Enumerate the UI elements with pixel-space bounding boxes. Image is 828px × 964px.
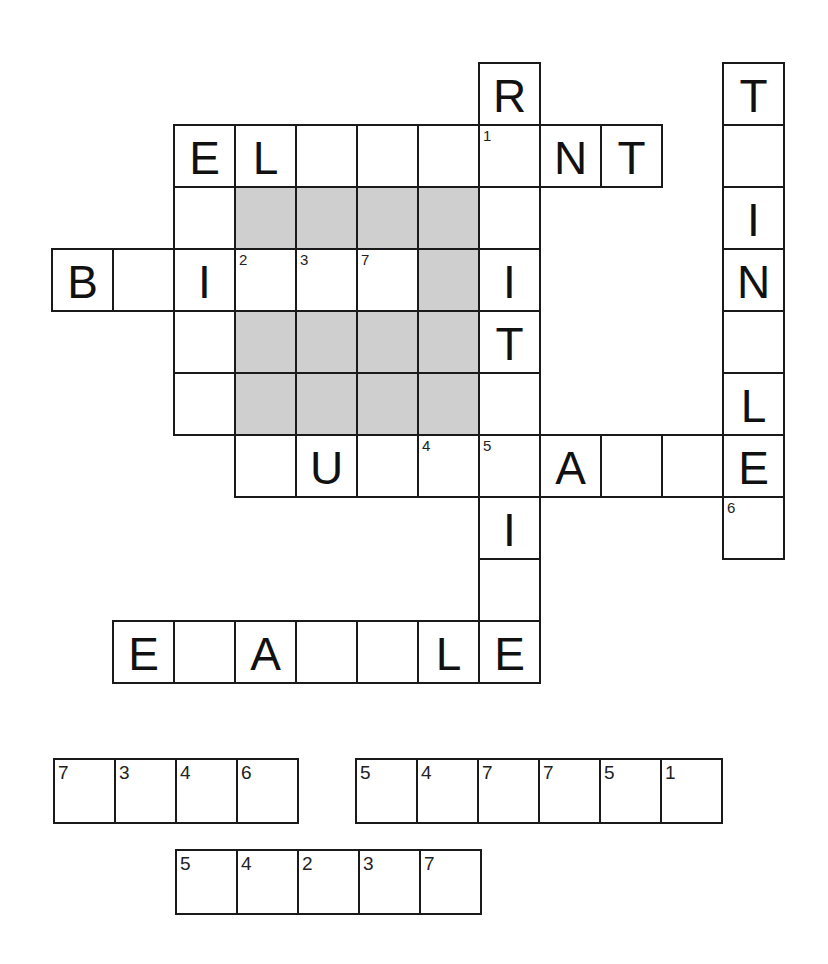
- crossword-cell[interactable]: [295, 620, 358, 684]
- cell-letter: N: [541, 132, 600, 184]
- code-number: 7: [58, 762, 69, 784]
- crossword-cell[interactable]: A: [234, 620, 297, 684]
- cell-letter: E: [480, 628, 539, 680]
- crossword-cell[interactable]: B: [51, 248, 114, 312]
- shaded-cell: [417, 186, 480, 250]
- cell-letter: T: [724, 70, 783, 122]
- crossword-cell[interactable]: I: [478, 496, 541, 560]
- cell-letter: A: [236, 628, 295, 680]
- crossword-cell[interactable]: T: [722, 62, 785, 126]
- crossword-cell[interactable]: I: [722, 186, 785, 250]
- code-word-cell[interactable]: 6: [236, 758, 299, 824]
- code-number: 7: [482, 762, 493, 784]
- crossword-cell[interactable]: [722, 310, 785, 374]
- cell-letter: N: [724, 256, 783, 308]
- cell-letter: I: [724, 194, 783, 246]
- code-number: 4: [180, 762, 191, 784]
- crossword-cell[interactable]: R: [478, 62, 541, 126]
- crossword-cell[interactable]: [295, 124, 358, 188]
- code-word-cell[interactable]: 5: [599, 758, 662, 824]
- crossword-cell[interactable]: [661, 434, 724, 498]
- crossword-cell[interactable]: A: [539, 434, 602, 498]
- crossword-cell[interactable]: [173, 310, 236, 374]
- cell-letter: E: [724, 442, 783, 494]
- crossword-cell[interactable]: 4: [417, 434, 480, 498]
- crossword-cell[interactable]: E: [112, 620, 175, 684]
- code-word-cell[interactable]: 4: [175, 758, 238, 824]
- cell-number: 6: [727, 499, 735, 516]
- crossword-cell[interactable]: [112, 248, 175, 312]
- code-word-cell[interactable]: 4: [236, 849, 299, 915]
- cell-number: 1: [483, 127, 491, 144]
- cell-letter: T: [480, 318, 539, 370]
- code-number: 6: [241, 762, 252, 784]
- crossword-cell[interactable]: [600, 434, 663, 498]
- code-word-cell[interactable]: 7: [419, 849, 482, 915]
- crossword-cell[interactable]: 7: [356, 248, 419, 312]
- crossword-cell[interactable]: [173, 620, 236, 684]
- code-word-cell[interactable]: 5: [355, 758, 418, 824]
- cell-letter: L: [419, 628, 478, 680]
- code-number: 2: [302, 853, 313, 875]
- cell-letter: E: [114, 628, 173, 680]
- crossword-cell[interactable]: 2: [234, 248, 297, 312]
- code-word-cell[interactable]: 7: [538, 758, 601, 824]
- code-number: 3: [119, 762, 130, 784]
- code-word-cell[interactable]: 7: [53, 758, 116, 824]
- crossword-cell[interactable]: N: [539, 124, 602, 188]
- cell-number: 7: [361, 251, 369, 268]
- crossword-cell[interactable]: E: [722, 434, 785, 498]
- crossword-cell[interactable]: E: [478, 620, 541, 684]
- code-word-cell[interactable]: 7: [477, 758, 540, 824]
- cell-letter: A: [541, 442, 600, 494]
- code-number: 5: [604, 762, 615, 784]
- crossword-cell[interactable]: [356, 620, 419, 684]
- cell-letter: I: [175, 256, 234, 308]
- code-word-cell[interactable]: 1: [660, 758, 723, 824]
- code-number: 4: [241, 853, 252, 875]
- code-number: 4: [421, 762, 432, 784]
- crossword-cell[interactable]: U: [295, 434, 358, 498]
- crossword-cell[interactable]: [173, 372, 236, 436]
- cell-letter: I: [480, 504, 539, 556]
- crossword-cell[interactable]: T: [600, 124, 663, 188]
- cell-number: 2: [239, 251, 247, 268]
- crossword-cell[interactable]: 3: [295, 248, 358, 312]
- shaded-cell: [295, 310, 358, 374]
- crossword-cell[interactable]: L: [417, 620, 480, 684]
- crossword-cell[interactable]: [478, 186, 541, 250]
- shaded-cell: [234, 372, 297, 436]
- crossword-cell[interactable]: E: [173, 124, 236, 188]
- cell-letter: L: [724, 380, 783, 432]
- crossword-cell[interactable]: L: [234, 124, 297, 188]
- crossword-cell[interactable]: 6: [722, 496, 785, 560]
- code-word-cell[interactable]: 4: [416, 758, 479, 824]
- shaded-cell: [234, 186, 297, 250]
- code-number: 7: [424, 853, 435, 875]
- crossword-cell[interactable]: I: [173, 248, 236, 312]
- crossword-cell[interactable]: [356, 124, 419, 188]
- crossword-cell[interactable]: [478, 372, 541, 436]
- shaded-cell: [234, 310, 297, 374]
- code-word-cell[interactable]: 3: [114, 758, 177, 824]
- shaded-cell: [295, 372, 358, 436]
- crossword-cell[interactable]: [722, 124, 785, 188]
- crossword-cell[interactable]: 5: [478, 434, 541, 498]
- code-number: 1: [665, 762, 676, 784]
- shaded-cell: [356, 372, 419, 436]
- crossword-cell[interactable]: [356, 434, 419, 498]
- crossword-cell[interactable]: [234, 434, 297, 498]
- crossword-cell[interactable]: [173, 186, 236, 250]
- crossword-cell[interactable]: N: [722, 248, 785, 312]
- crossword-cell[interactable]: 1: [478, 124, 541, 188]
- code-word-cell[interactable]: 2: [297, 849, 360, 915]
- crossword-cell[interactable]: T: [478, 310, 541, 374]
- crossword-cell[interactable]: [417, 124, 480, 188]
- code-word-cell[interactable]: 3: [358, 849, 421, 915]
- shaded-cell: [356, 186, 419, 250]
- crossword-cell[interactable]: I: [478, 248, 541, 312]
- code-word-cell[interactable]: 5: [175, 849, 238, 915]
- crossword-cell[interactable]: L: [722, 372, 785, 436]
- crossword-cell[interactable]: [478, 558, 541, 622]
- cell-letter: L: [236, 132, 295, 184]
